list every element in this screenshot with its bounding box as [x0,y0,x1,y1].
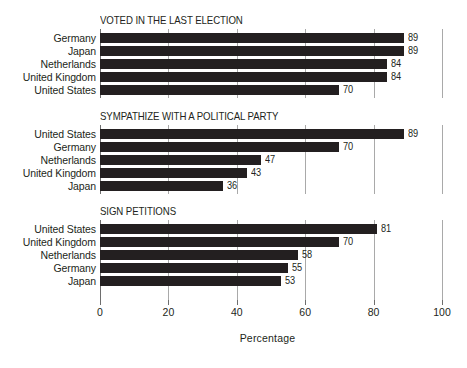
x-tick-100 [442,300,443,305]
bar-row: 89 [100,45,442,58]
category-label: United States [0,84,96,97]
x-tick-60 [305,300,306,305]
bar [100,263,288,273]
bar-value-label: 89 [408,128,418,140]
x-tick-20 [168,300,169,305]
gridline-100 [442,220,443,300]
bar-value-label: 70 [343,141,353,153]
bar-row: 47 [100,154,442,167]
x-tick-label: 80 [368,306,380,318]
bar-value-label: 81 [381,223,391,235]
bar-rows: 81 70 58 55 53 [100,220,442,288]
category-label: Japan [0,275,96,288]
x-axis-title-text: Percentage [240,332,296,344]
bar [100,33,404,43]
bar-row: 53 [100,275,442,288]
bar-value-label: 47 [265,154,275,166]
bar-value-label: 43 [251,167,261,179]
chart-figure: VOTED IN THE LAST ELECTION Germany Japan… [0,0,467,368]
x-tick-label: 20 [163,306,175,318]
x-tick-label: 60 [299,306,311,318]
bar-row: 36 [100,180,442,193]
bar [100,155,261,165]
x-axis: 020406080100 [100,300,442,301]
bar-value-label: 84 [391,58,401,70]
bar [100,142,339,152]
bar-value-label: 36 [227,180,237,192]
bar-row: 89 [100,128,442,141]
category-label: United Kingdom [0,167,96,180]
bar [100,237,339,247]
panel-category-labels: United States United Kingdom Netherlands… [0,223,96,288]
category-label: Germany [0,141,96,154]
category-label: United Kingdom [0,71,96,84]
panel-plot-area: 89 89 84 84 70 [100,29,442,98]
category-label: Netherlands [0,249,96,262]
bar [100,85,339,95]
bar-value-label: 70 [343,236,353,248]
category-label: Netherlands [0,58,96,71]
bar-value-label: 55 [292,262,302,274]
panel-title: SYMPATHIZE WITH A POLITICAL PARTY [100,110,278,122]
category-label: Japan [0,180,96,193]
panel-category-labels: Germany Japan Netherlands United Kingdom… [0,32,96,97]
x-tick-40 [237,300,238,305]
bar-rows: 89 89 84 84 70 [100,29,442,97]
bar-row: 89 [100,32,442,45]
bar-row: 81 [100,223,442,236]
gridline-100 [442,125,443,194]
bar [100,59,387,69]
panel-title: SIGN PETITIONS [100,205,176,217]
bar-row: 55 [100,262,442,275]
bar-row: 70 [100,84,442,97]
category-label: United States [0,223,96,236]
bar-value-label: 89 [408,32,418,44]
category-label: United States [0,128,96,141]
bar [100,276,281,286]
category-label: Germany [0,262,96,275]
bar-value-label: 53 [285,275,295,287]
bar-row: 70 [100,236,442,249]
x-tick-80 [374,300,375,305]
panel-plot-area: 89 70 47 43 36 [100,125,442,194]
bar-row: 58 [100,249,442,262]
bar-row: 43 [100,167,442,180]
bar [100,168,247,178]
bar [100,46,404,56]
x-tick-0 [100,300,101,305]
gridline-100 [442,29,443,98]
panel-title: VOTED IN THE LAST ELECTION [100,14,243,26]
category-label: United Kingdom [0,236,96,249]
bar [100,129,404,139]
panel-category-labels: United States Germany Netherlands United… [0,128,96,193]
bar [100,250,298,260]
bar-value-label: 58 [302,249,312,261]
bar-row: 84 [100,71,442,84]
bar-value-label: 84 [391,71,401,83]
category-label: Netherlands [0,154,96,167]
bar-value-label: 89 [408,45,418,57]
category-label: Germany [0,32,96,45]
bar [100,72,387,82]
bar-rows: 89 70 47 43 36 [100,125,442,193]
bar-row: 84 [100,58,442,71]
bar [100,224,377,234]
x-tick-label: 40 [231,306,243,318]
bar [100,181,223,191]
x-axis-title: Percentage [0,332,467,344]
panel-plot-area: 81 70 58 55 53 [100,220,442,300]
category-label: Japan [0,45,96,58]
bar-row: 70 [100,141,442,154]
bar-value-label: 70 [343,84,353,96]
x-tick-label: 0 [97,306,103,318]
x-tick-label: 100 [433,306,451,318]
